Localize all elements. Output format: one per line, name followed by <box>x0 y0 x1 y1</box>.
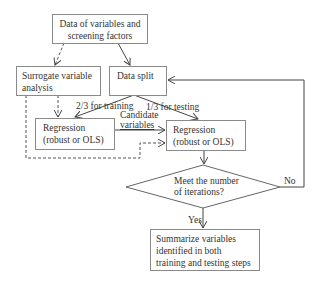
reg-test-line2: (robust or OLS) <box>173 136 245 148</box>
reg-train-line2: (robust or OLS) <box>43 134 114 146</box>
regression-test-node: Regression (robust or OLS) <box>166 120 246 151</box>
data-node-line2: screening factors <box>53 30 147 42</box>
summary-node: Summarize variables identified in both t… <box>150 229 260 271</box>
surrogate-line1: Surrogate variable <box>22 70 100 82</box>
split-line1: Data split <box>117 70 166 82</box>
summary-line3: training and testing steps <box>156 257 259 269</box>
candidate-label-2: variables <box>120 120 154 131</box>
surrogate-line2: analysis <box>22 82 100 94</box>
no-label: No <box>284 176 296 187</box>
data-node-line1: Data of variables and <box>53 18 147 30</box>
yes-label: Yes <box>188 215 202 226</box>
summary-line1: Summarize variables <box>156 233 259 245</box>
reg-test-line1: Regression <box>173 124 245 136</box>
decision-line2: of iterations? <box>174 187 239 198</box>
decision-text: Meet the number of iterations? <box>174 176 239 198</box>
surrogate-node: Surrogate variable analysis <box>16 66 101 96</box>
split-node: Data split <box>109 66 167 96</box>
summary-line2: identified in both <box>156 245 259 257</box>
decision-line1: Meet the number <box>174 176 239 187</box>
flowchart: Data of variables and screening factors … <box>0 0 317 284</box>
reg-train-line1: Regression <box>43 122 114 134</box>
data-node: Data of variables and screening factors <box>52 14 148 44</box>
regression-train-node: Regression (robust or OLS) <box>35 118 115 150</box>
